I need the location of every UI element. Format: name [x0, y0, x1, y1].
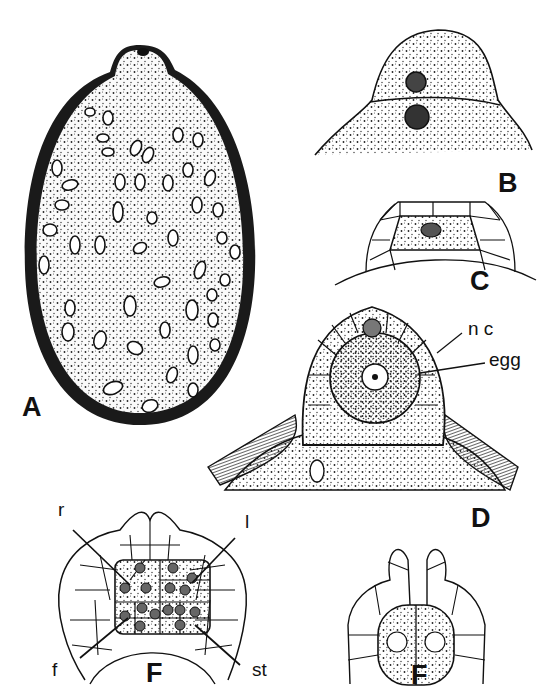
panel-e-letter: F: [146, 660, 163, 687]
label-f: f: [52, 660, 57, 679]
label-nc: n c: [468, 319, 493, 338]
label-l: l: [245, 512, 249, 531]
panel-c: C: [330, 180, 539, 300]
label-st: st: [252, 660, 267, 679]
panel-d-letter: D: [471, 505, 491, 532]
panel-c-drawing: [330, 180, 539, 300]
panel-a-letter: A: [22, 394, 42, 421]
panel-e-drawing: [0, 490, 300, 684]
panel-b: B: [300, 0, 539, 170]
panel-d: n c egg D: [200, 295, 539, 505]
panel-c-letter: C: [470, 268, 490, 295]
panel-f-drawing: [340, 530, 539, 684]
label-r: r: [58, 500, 64, 519]
panel-b-drawing: [300, 0, 539, 170]
panel-f-letter: F: [411, 662, 428, 689]
panel-f: F: [340, 530, 539, 684]
nc-leader-line: [437, 333, 462, 353]
panel-e: r l f st F: [0, 490, 300, 684]
label-egg: egg: [489, 350, 521, 369]
